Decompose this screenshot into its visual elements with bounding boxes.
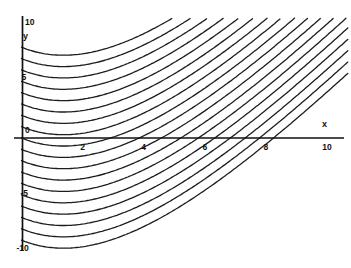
y-tick-label: -10	[17, 243, 30, 253]
x-tick-label: 10	[322, 142, 332, 152]
x-axis-label: x	[322, 120, 327, 129]
y-tick-label: -5	[21, 188, 29, 198]
x-tick-label: 2	[80, 142, 85, 152]
x-tick-label: 8	[264, 142, 269, 152]
solution-curve	[22, 62, 348, 237]
solution-curve	[22, 19, 191, 67]
solution-curve	[22, 39, 348, 214]
solution-curve	[22, 28, 348, 203]
solution-curve	[22, 19, 253, 112]
solution-curve	[22, 19, 281, 135]
plot-canvas: 246810105-5-10	[0, 0, 351, 268]
y-tick-label: 10	[25, 17, 35, 27]
x-tick-label: 4	[141, 142, 146, 152]
origin-label: 0	[25, 126, 30, 135]
y-axis-label: y	[23, 32, 28, 41]
x-tick-label: 6	[202, 142, 207, 152]
solution-curve	[22, 73, 348, 248]
solution-curve	[22, 19, 334, 181]
solution-curve	[22, 18, 346, 191]
solution-curve	[22, 19, 172, 56]
figure: 246810105-5-10 x y 0	[0, 0, 351, 268]
y-tick-label: 5	[22, 72, 27, 82]
